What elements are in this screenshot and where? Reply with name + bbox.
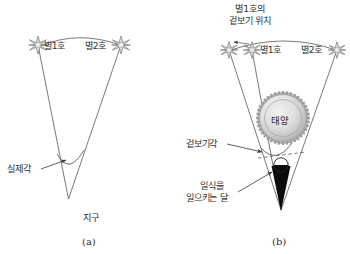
star-icon-2-b xyxy=(328,42,346,59)
panel-b-sun-label: 태양 xyxy=(271,113,289,127)
panel-b-apparent-position-label-line1: 별1호의 xyxy=(205,3,295,14)
figure-svg xyxy=(0,0,350,254)
sightline-star1-a xyxy=(38,45,69,199)
panel-a-caption: (a) xyxy=(82,236,96,247)
star-icon-2-a xyxy=(112,36,131,54)
panel-b-apparent-angle-label: 겉보기각 xyxy=(186,138,217,149)
panel-b-moon-label-line2: 일으키는 달 xyxy=(186,192,228,203)
panel-a-earth-label: 지구 xyxy=(83,212,99,223)
apparent-angle-arc xyxy=(261,143,292,155)
deflection-arrow-icon xyxy=(234,42,249,44)
panel-a-graphics xyxy=(29,36,131,199)
star-icon-apparent-b xyxy=(220,42,238,59)
panel-b-apparent-position-label-line2: 겉보기 위치 xyxy=(198,15,302,26)
panel-b-star2-label: 별2호 xyxy=(301,44,322,55)
sightline-star2-a xyxy=(69,45,122,199)
panel-b-moon-label-line1: 일식을 xyxy=(200,180,223,191)
apparent-angle-arrow-icon xyxy=(227,144,262,152)
moon-shadow-cone-icon xyxy=(272,158,291,211)
panel-b-caption: (b) xyxy=(272,236,286,247)
astronomy-figure: 별1호 별2호 실제각 지구 (a) 별1호의 겉보기 위치 별1호 별2호 태… xyxy=(0,0,350,254)
star-icon-1-b xyxy=(243,42,261,59)
panel-a-angle-label: 실제각 xyxy=(7,163,30,174)
panel-a-star1-label: 별1호 xyxy=(44,40,65,51)
panel-b-star1-label: 별1호 xyxy=(260,44,281,55)
panel-a-star2-label: 별2호 xyxy=(85,40,106,51)
moon-arrow-icon xyxy=(238,172,272,192)
